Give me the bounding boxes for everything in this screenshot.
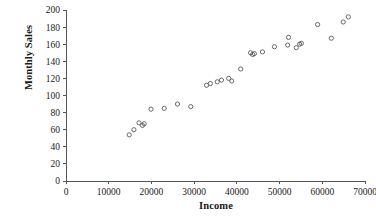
x-tick-label: 10000 (97, 187, 121, 197)
data-point (219, 78, 223, 82)
data-point (215, 80, 219, 84)
y-tick-label: 0 (55, 176, 60, 186)
x-tick-label: 40000 (225, 187, 249, 197)
data-point (239, 67, 243, 71)
y-tick-label: 160 (46, 40, 61, 50)
data-point (162, 106, 166, 110)
data-point (149, 107, 153, 111)
data-point (272, 45, 276, 49)
y-tick-label: 40 (51, 142, 61, 152)
y-tick-label: 140 (46, 57, 61, 67)
data-point (329, 36, 333, 40)
data-point (315, 22, 319, 26)
y-tick-label: 60 (51, 125, 61, 135)
x-axis: 010000200003000040000500006000070000 (64, 181, 376, 197)
data-point (189, 105, 193, 109)
x-tick-label: 70000 (353, 187, 376, 197)
x-tick-label: 30000 (182, 187, 206, 197)
x-tick-label: 20000 (140, 187, 164, 197)
data-point (132, 128, 136, 132)
y-tick-label: 100 (46, 91, 61, 101)
data-point (341, 20, 345, 24)
data-point (286, 35, 290, 39)
data-point (294, 46, 298, 50)
data-point (286, 43, 290, 47)
y-tick-label: 120 (46, 74, 61, 84)
data-point (208, 81, 212, 85)
x-axis-label: Income (66, 200, 366, 211)
x-tick-label: 0 (64, 187, 69, 197)
data-point (346, 15, 350, 19)
data-point (175, 102, 179, 106)
y-tick-label: 20 (51, 159, 61, 169)
y-tick-label: 180 (46, 23, 61, 33)
x-tick-label: 60000 (310, 187, 334, 197)
y-axis: 020406080100120140160180200 (46, 5, 66, 186)
data-point (127, 133, 131, 137)
y-tick-label: 80 (51, 108, 61, 118)
y-tick-label: 200 (46, 5, 61, 15)
data-point (260, 50, 264, 54)
scatter-chart: Monthly Sales 02040608010012014016018020… (0, 0, 376, 223)
x-tick-label: 50000 (268, 187, 292, 197)
plot-area: 020406080100120140160180200 010000200003… (0, 0, 376, 223)
data-point-group (127, 15, 350, 137)
data-point (230, 79, 234, 83)
